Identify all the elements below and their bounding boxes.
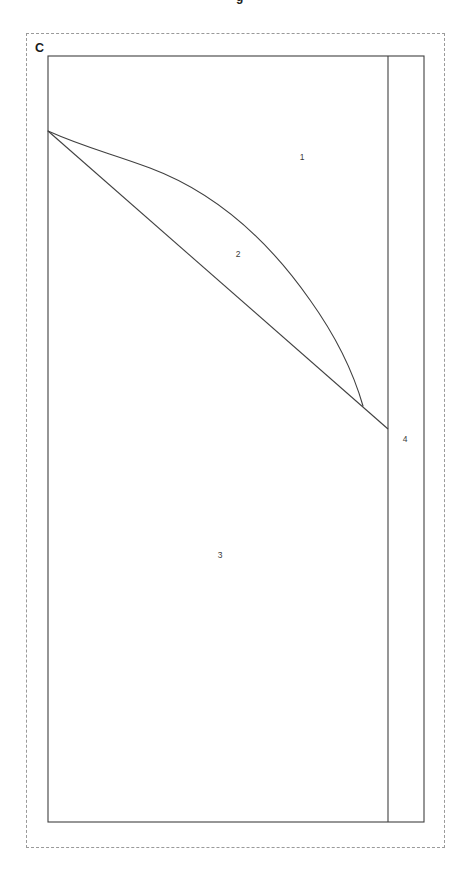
main-domain-rect [48,56,424,822]
region-label-4: 4 [403,435,408,444]
region-label-1: 1 [300,153,305,162]
region-label-3: 3 [218,551,223,560]
region-label-2: 2 [236,250,241,259]
figure-panel-c: g C 1 2 3 4 [0,0,474,875]
diagonal-boundary-line [48,131,388,429]
